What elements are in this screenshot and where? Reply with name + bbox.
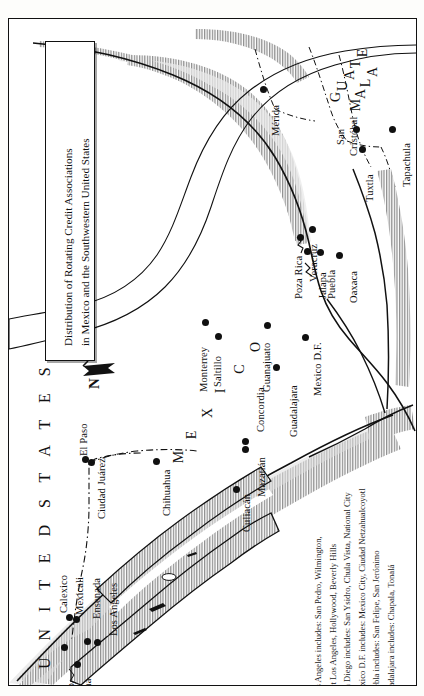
city-label: Saltillo [213, 356, 224, 387]
city-dot[interactable] [202, 319, 209, 326]
city-dot[interactable] [61, 644, 68, 651]
legend-notes: Los Angeles includes: San Pedro, Wilming… [303, 443, 417, 686]
city-label: Calexico [59, 575, 70, 613]
city-label: Chihuahua [162, 470, 173, 516]
city-dot[interactable] [73, 616, 80, 623]
page-background: Distribution of Rotating Credit Associat… [0, 0, 424, 696]
city-dot[interactable] [336, 252, 343, 259]
region-label-united-states: U N I T E D S T A T E S [37, 361, 53, 669]
city-dot[interactable] [242, 446, 249, 453]
city-dot[interactable] [302, 334, 309, 341]
region-letter: A [353, 89, 369, 99]
legend-note-line: Los Angeles includes: San Pedro, Wilming… [313, 536, 323, 686]
legend-note-line: San Diego includes: San Ysidro, Chula Vi… [342, 492, 352, 686]
city-label: Los Angeles [109, 583, 120, 636]
city-dot[interactable] [359, 146, 366, 153]
legend-note-line: Puebla includes: San Felipe, San Jerónim… [371, 550, 381, 686]
city-label: Diego [66, 683, 77, 686]
region-letter: A [342, 70, 358, 80]
region-letter: E [355, 49, 371, 58]
city-dot[interactable] [317, 249, 324, 256]
city-label: Monterrey [199, 347, 210, 392]
city-dot[interactable] [88, 459, 95, 466]
city-label: El Paso [79, 424, 90, 457]
city-label: San [336, 129, 347, 145]
city-label: Guanajuato [262, 343, 273, 392]
city-dot[interactable] [242, 438, 249, 445]
city-dot[interactable] [153, 458, 160, 465]
city-dot[interactable] [389, 126, 396, 133]
region-letter: I [213, 389, 229, 394]
city-dot[interactable] [66, 614, 73, 621]
city-dot[interactable] [84, 638, 91, 645]
north-label: N [86, 378, 103, 389]
city-dot[interactable] [233, 486, 240, 493]
city-dot[interactable] [264, 322, 271, 329]
region-letter: C [231, 364, 247, 373]
city-dot[interactable] [260, 86, 267, 93]
city-label: Cristóbal [349, 117, 360, 156]
region-letter: L [358, 79, 374, 88]
city-dot[interactable] [273, 364, 280, 371]
city-label: Mérida [271, 105, 282, 136]
map-title-box: Distribution of Rotating Credit Associat… [45, 41, 95, 361]
compass-rose: N [75, 349, 121, 393]
map-title-line-2: in Mexico and the Southwestern United St… [79, 138, 91, 346]
region-letter: M [348, 99, 364, 111]
city-label: Poza Rica [294, 256, 305, 299]
city-label: Concordia [256, 387, 267, 432]
city-label: Mexicali [75, 577, 86, 615]
city-label: Tuxtla [365, 174, 376, 202]
city-label: Mazatlán [257, 457, 268, 497]
city-label: Puebla [327, 270, 338, 299]
city-dot[interactable] [297, 234, 304, 241]
legend-note-line: Mexico D.F. includes: Mexico City, Ciuda… [357, 488, 367, 686]
region-letter: U [335, 81, 351, 91]
city-label: Mexico D.F. [313, 342, 324, 396]
city-dot[interactable] [74, 661, 81, 668]
legend-note-line: East Los Angeles, Hollywood, Beverly Hil… [328, 544, 338, 686]
map-frame: Distribution of Rotating Credit Associat… [8, 18, 417, 686]
city-label: Tapachula [402, 143, 413, 187]
city-label: Culiacán [242, 494, 253, 532]
region-letter: M [171, 451, 187, 463]
map-title-line-1: Distribution of Rotating Credit Associat… [62, 148, 74, 346]
region-letter: A [365, 67, 381, 77]
city-label: Tijuana [83, 679, 94, 686]
region-letter: X [200, 408, 216, 418]
city-dot[interactable] [304, 248, 311, 255]
city-label: Ensenada [92, 578, 103, 619]
city-dot[interactable] [309, 226, 316, 233]
city-dot[interactable] [215, 333, 222, 340]
city-label: Oaxaca [349, 271, 360, 303]
region-letter: G [328, 92, 344, 102]
region-letter: T [348, 60, 364, 69]
city-label: Ciudad Juárez [97, 458, 108, 519]
city-dot[interactable] [94, 639, 101, 646]
city-label: Guadalajara [289, 385, 300, 437]
legend-note-line: Guadalajara includes: Chapala, Tonalá [386, 565, 396, 686]
region-letter: E [184, 431, 200, 440]
